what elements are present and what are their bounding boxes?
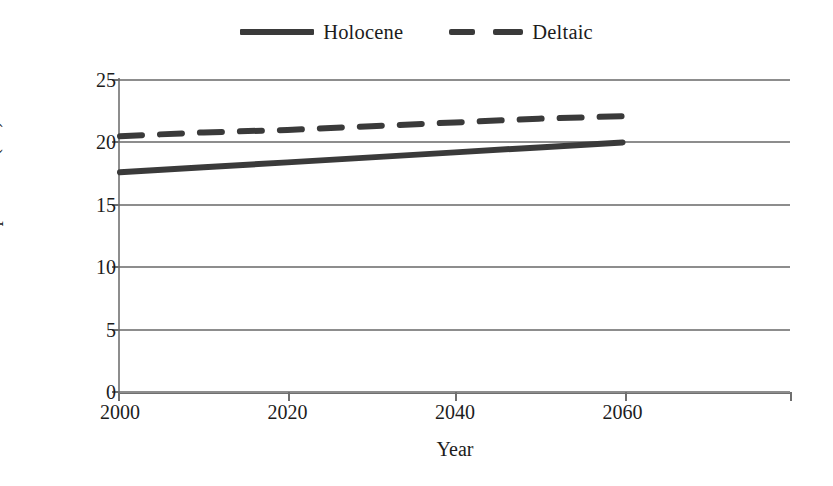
y-tick-label-15: 15	[56, 195, 116, 215]
x-tick-mark-3	[625, 392, 627, 401]
legend-label-holocene: Holocene	[323, 22, 403, 43]
x-tick-label-2020: 2020	[243, 402, 333, 422]
x-axis-title: Year	[120, 438, 790, 461]
x-tick-mark-2	[455, 392, 457, 401]
y-tick-label-5: 5	[56, 320, 116, 340]
x-tick-mark-0	[118, 392, 120, 401]
series-lines	[120, 80, 790, 392]
series-line-holocene	[120, 142, 623, 172]
y-tick-label-10: 10	[56, 257, 116, 277]
x-tick-label-2060: 2060	[578, 402, 668, 422]
chart-legend: Holocene Deltaic	[0, 22, 833, 43]
x-tick-mark-1	[288, 392, 290, 401]
dashed-line-swatch-icon	[449, 29, 523, 35]
plot-area: 0510152025 2000202020402060	[120, 80, 790, 392]
solid-line-swatch-icon	[240, 29, 314, 35]
legend-label-deltaic: Deltaic	[532, 22, 593, 43]
y-tick-label-25: 25	[56, 70, 116, 90]
x-tick-mark-4	[790, 392, 792, 401]
x-tick-label-2040: 2040	[410, 402, 500, 422]
line-chart-figure: Holocene Deltaic Mean annual temperature…	[0, 0, 833, 486]
y-tick-label-20: 20	[56, 132, 116, 152]
legend-entry-holocene: Holocene	[240, 22, 403, 43]
legend-entry-deltaic: Deltaic	[449, 22, 593, 43]
x-tick-label-2000: 2000	[75, 402, 165, 422]
series-line-deltaic	[120, 116, 623, 136]
y-tick-label-0: 0	[56, 382, 116, 402]
y-axis-title-text: Mean annual temperature (°C)	[0, 121, 3, 365]
